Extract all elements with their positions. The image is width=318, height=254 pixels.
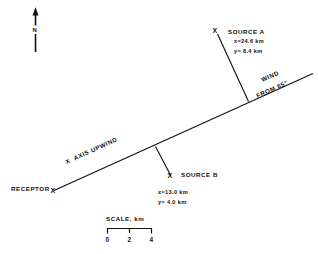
wind-axis-source-receptor-figure: N X SOURCE A x=24.6 km y= 8.4 km X SOURC… [0,0,318,254]
source-b-y-value: y= 4.0 km [158,200,187,206]
scale-tick-4: 4 [150,236,154,243]
source-a-x-value: x=24.6 km [234,39,264,45]
receptor-marker: X [51,187,56,194]
source-a-marker: X [213,27,218,34]
source-a-label: SOURCE A [228,29,265,35]
receptor-label: RECEPTOR [11,186,50,192]
scale-tick-2: 2 [128,236,132,243]
scale-bar-title: SCALE, km [106,216,144,222]
source-b-marker: X [168,172,173,179]
source-b-x-value: x=13.0 km [158,190,188,196]
scale-tick-0: 0 [106,236,110,243]
north-arrow-label: N [33,27,37,33]
source-a-y-value: y= 8.4 km [234,49,263,55]
source-b-label: SOURCE B [181,172,218,178]
figure-vector-layer [0,0,318,254]
scale-bar-graphic [107,229,152,234]
